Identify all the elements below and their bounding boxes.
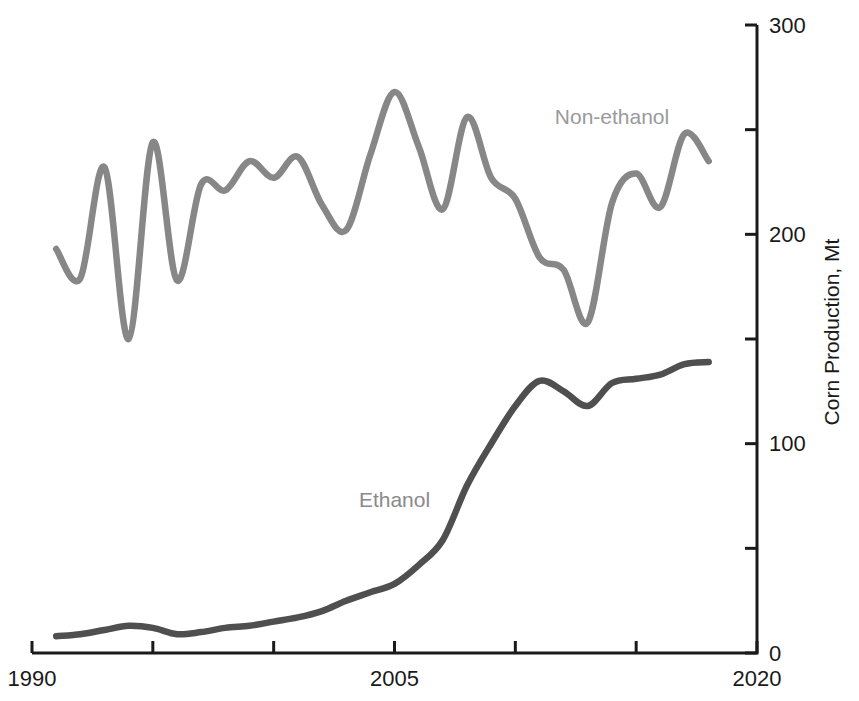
series-lines <box>56 92 709 636</box>
x-tick-label: 2020 <box>733 666 782 691</box>
series-label-non-ethanol: Non-ethanol <box>555 105 669 128</box>
y-axis-title: Corn Production, Mt <box>820 238 843 425</box>
series-path-non-ethanol <box>56 92 709 339</box>
corn-production-chart: 1990200520200100200300 Non-ethanol Ethan… <box>0 0 859 701</box>
chart-canvas: 1990200520200100200300 Non-ethanol Ethan… <box>0 0 859 701</box>
x-tick-label: 1990 <box>8 666 57 691</box>
y-tick-label: 100 <box>769 431 806 456</box>
y-tick-label: 300 <box>769 13 806 38</box>
y-tick-label: 0 <box>769 641 781 666</box>
x-tick-label: 2005 <box>370 666 419 691</box>
y-tick-label: 200 <box>769 222 806 247</box>
series-label-ethanol: Ethanol <box>359 488 430 511</box>
